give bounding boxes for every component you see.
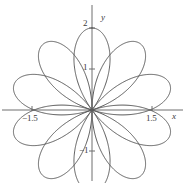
x-axis-label: x [172,112,176,121]
y-axis-label: y [101,13,105,22]
y-tick-label-pos1: 1 [83,63,87,72]
x-tick-label-pos1p5: 1.5 [146,114,157,123]
polar-plot-canvas [0,0,185,183]
y-tick-label-pos2: 2 [83,19,87,28]
y-tick-label-neg1: −1 [79,146,88,155]
polar-rose-figure: −1.5 1.5 2 1 −1 x y [0,0,185,183]
x-tick-label-neg1p5: −1.5 [22,114,38,123]
